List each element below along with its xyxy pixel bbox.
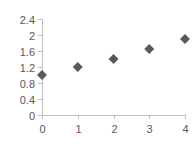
y-tick-label: 0 xyxy=(29,110,35,122)
x-axis: 01234 xyxy=(39,115,188,135)
x-tick-label: 0 xyxy=(39,123,45,135)
diamond-marker xyxy=(37,70,47,80)
y-tick-label: 1.2 xyxy=(20,62,35,74)
y-tick-label: 2 xyxy=(29,30,35,42)
diamond-marker xyxy=(73,62,83,72)
x-tick-label: 3 xyxy=(146,123,152,135)
y-tick-label: 0.8 xyxy=(20,78,35,90)
data-points xyxy=(37,34,190,80)
scatter-chart: 00.40.81.21.622.4 01234 xyxy=(0,0,196,149)
y-tick-label: 0.4 xyxy=(20,94,35,106)
x-tick-label: 4 xyxy=(182,123,188,135)
y-tick-label: 2.4 xyxy=(20,14,35,26)
diamond-marker xyxy=(109,54,119,64)
x-tick-label: 1 xyxy=(75,123,81,135)
x-tick-label: 2 xyxy=(111,123,117,135)
diamond-marker xyxy=(144,44,154,54)
y-tick-label: 1.6 xyxy=(20,46,35,58)
y-axis: 00.40.81.21.622.4 xyxy=(20,14,43,122)
diamond-marker xyxy=(180,34,190,44)
